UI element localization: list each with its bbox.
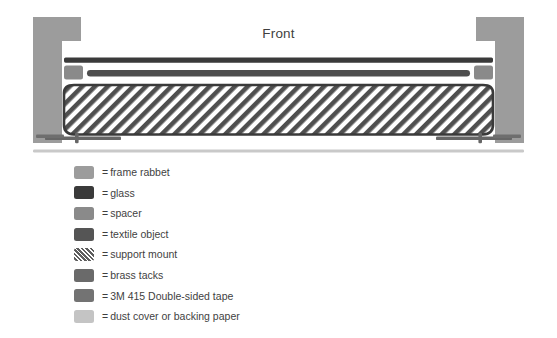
legend-equals-sign: =: [102, 187, 108, 199]
legend-swatch-dust-cover: [74, 310, 94, 323]
legend-equals-sign: =: [102, 269, 108, 281]
legend-equals-sign: =: [102, 228, 108, 240]
legend-label-text: 3M 415 Double-sided tape: [110, 290, 233, 302]
legend-label-brass-tacks: =brass tacks: [102, 270, 163, 281]
legend-label-textile-object: =textile object: [102, 229, 169, 240]
legend-swatch-tape: [74, 289, 94, 302]
legend-swatch-spacer: [74, 207, 94, 220]
legend-equals-sign: =: [102, 207, 108, 219]
legend-item-tape: =3M 415 Double-sided tape: [74, 286, 474, 307]
frame-cross-section-diagram: Front =frame rabbet =glass =spacer =text…: [0, 0, 557, 338]
cross-section-illustration: Front: [0, 0, 557, 160]
tape-strip-right: [493, 135, 521, 139]
legend-item-glass: =glass: [74, 183, 474, 204]
legend-label-text: brass tacks: [110, 269, 163, 281]
legend-label-text: support mount: [110, 248, 177, 260]
legend-swatch-support-mount: [74, 248, 94, 261]
legend-swatch-glass: [74, 186, 94, 199]
legend-equals-sign: =: [102, 248, 108, 260]
legend-label-text: frame rabbet: [110, 166, 170, 178]
legend-swatch-frame-rabbet: [74, 166, 94, 179]
legend-label-tape: =3M 415 Double-sided tape: [102, 291, 233, 302]
legend-item-support-mount: =support mount: [74, 244, 474, 265]
legend-label-text: spacer: [110, 207, 142, 219]
legend-equals-sign: =: [102, 290, 108, 302]
tape-strip-left: [36, 135, 64, 139]
legend-label-frame-rabbet: =frame rabbet: [102, 167, 170, 178]
legend-swatch-textile-object: [74, 228, 94, 241]
legend-label-text: textile object: [110, 228, 168, 240]
legend-equals-sign: =: [102, 166, 108, 178]
support-mount: [64, 85, 493, 135]
legend-item-brass-tacks: =brass tacks: [74, 265, 474, 286]
spacer-right: [474, 66, 493, 80]
legend-swatch-brass-tacks: [74, 269, 94, 282]
legend-label-spacer: =spacer: [102, 208, 142, 219]
legend-label-text: glass: [110, 187, 135, 199]
dust-cover: [33, 150, 524, 153]
glass-pane: [64, 58, 493, 63]
legend-item-dust-cover: =dust cover or backing paper: [74, 306, 474, 327]
legend-equals-sign: =: [102, 310, 108, 322]
legend-item-spacer: =spacer: [74, 203, 474, 224]
textile-object: [87, 70, 470, 77]
legend-item-frame-rabbet: =frame rabbet: [74, 162, 474, 183]
legend-label-support-mount: =support mount: [102, 249, 177, 260]
legend-item-textile-object: =textile object: [74, 224, 474, 245]
legend-label-dust-cover: =dust cover or backing paper: [102, 311, 240, 322]
legend-label-glass: =glass: [102, 188, 135, 199]
legend: =frame rabbet =glass =spacer =textile ob…: [74, 162, 474, 327]
legend-label-text: dust cover or backing paper: [110, 310, 240, 322]
spacer-left: [64, 66, 83, 80]
